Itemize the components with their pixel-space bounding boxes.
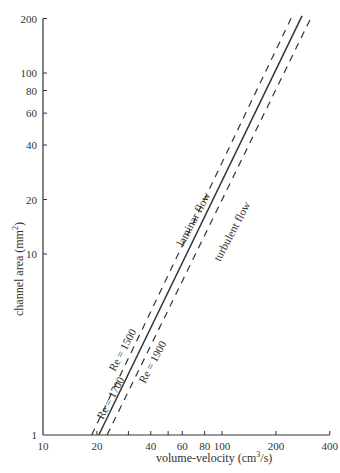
- y-tick-label: 40: [26, 139, 38, 151]
- series-line-1900: [107, 16, 312, 435]
- x-tick-label: 10: [38, 440, 50, 452]
- annotation-re-1500: Re = 1500: [106, 326, 138, 373]
- series-line-1700: [99, 16, 302, 435]
- annotations: laminar flow turbulent flow Re = 1500 Re…: [94, 190, 253, 421]
- y-tick-label: 20: [26, 194, 38, 206]
- annotation-re-1700: Re = 1700: [94, 374, 126, 421]
- y-tick-label: 1: [32, 429, 38, 441]
- x-tick-label: 400: [322, 440, 339, 452]
- chart: 102040608010020040011020406080100200 lam…: [0, 0, 340, 473]
- y-axis-label: channel area (mm2): [11, 222, 26, 316]
- annotation-re-1900: Re = 1900: [136, 338, 168, 385]
- series-lines: [92, 16, 312, 435]
- y-tick-label: 100: [21, 67, 38, 79]
- x-tick-label: 20: [91, 440, 103, 452]
- x-axis-label: volume-velocity (cm3/s): [156, 450, 272, 465]
- y-tick-label: 10: [26, 248, 38, 260]
- y-tick-label: 80: [26, 85, 38, 97]
- y-tick-label: 60: [26, 107, 38, 119]
- y-tick-label: 200: [21, 13, 38, 25]
